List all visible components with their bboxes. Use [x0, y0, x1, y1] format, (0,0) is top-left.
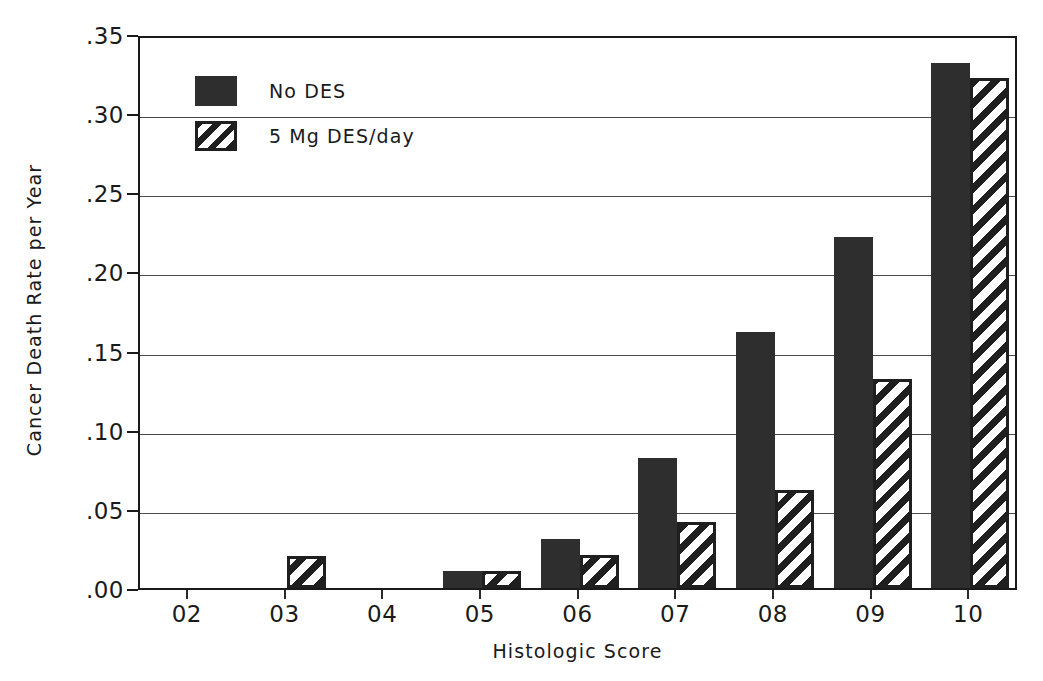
- bar-solid-10: [931, 63, 970, 589]
- x-axis-tick-label: 04: [342, 601, 422, 627]
- legend-item: 5 Mg DES/day: [195, 113, 525, 158]
- y-axis-tick-label: .00: [50, 579, 124, 602]
- legend-label-no-des: No DES: [269, 80, 346, 102]
- x-axis-tick-mark: [577, 590, 579, 599]
- x-axis-label: Histologic Score: [138, 640, 1017, 662]
- x-axis-tick-mark: [479, 590, 481, 599]
- x-axis-tick-mark: [870, 590, 872, 599]
- bar-group: [638, 38, 716, 588]
- legend-label-des: 5 Mg DES/day: [269, 125, 415, 147]
- y-axis-tick-mark: [127, 272, 138, 274]
- x-axis-tick-mark: [967, 590, 969, 599]
- y-axis-tick-mark: [127, 114, 138, 116]
- y-axis-tick-mark: [127, 193, 138, 195]
- x-axis-tick-mark: [772, 590, 774, 599]
- x-axis-tick-label: 10: [928, 601, 1008, 627]
- bar-solid-09: [834, 237, 873, 588]
- bar-hatch-07: [677, 522, 716, 588]
- y-axis-tick-label: .05: [50, 499, 124, 522]
- x-axis-tick-label: 09: [831, 601, 911, 627]
- legend-swatch-no-des: [195, 76, 237, 106]
- y-axis-tick-mark: [127, 352, 138, 354]
- legend-swatch-des: [195, 121, 237, 151]
- x-axis-tick-label: 05: [440, 601, 520, 627]
- bar-hatch-08: [775, 490, 814, 588]
- bar-solid-05: [443, 571, 482, 588]
- bar-solid-06: [541, 539, 580, 588]
- bar-hatch-03: [287, 556, 326, 588]
- x-axis-tick-label: 07: [635, 601, 715, 627]
- x-axis-tick-label: 06: [538, 601, 618, 627]
- x-axis-tick-label: 08: [733, 601, 813, 627]
- bar-hatch-09: [873, 379, 912, 588]
- y-axis-tick-label: .15: [50, 341, 124, 364]
- bar-hatch-10: [970, 78, 1009, 588]
- bar-hatch-06: [580, 555, 619, 588]
- y-axis-tick-labels: .00.05.10.15.20.25.30.35: [28, 0, 124, 681]
- bar-chart-figure: Cancer Death Rate per Year .00.05.10.15.…: [0, 0, 1043, 681]
- y-axis-tick-label: .10: [50, 420, 124, 443]
- x-axis-tick-mark: [674, 590, 676, 599]
- bar-group: [834, 38, 912, 588]
- x-axis-tick-mark: [186, 590, 188, 599]
- y-axis-tick-label: .25: [50, 183, 124, 206]
- bar-group: [736, 38, 814, 588]
- x-axis-tick-label: 03: [245, 601, 325, 627]
- y-axis-tick-mark: [127, 431, 138, 433]
- x-axis-tick-mark: [381, 590, 383, 599]
- bar-group: [541, 38, 619, 588]
- legend: No DES 5 Mg DES/day: [195, 68, 525, 158]
- y-axis-tick-label: .20: [50, 262, 124, 285]
- bar-solid-08: [736, 332, 775, 588]
- x-axis-tick-mark: [284, 590, 286, 599]
- bar-solid-07: [638, 458, 677, 588]
- y-axis-tick-mark: [127, 589, 138, 591]
- bar-hatch-05: [482, 571, 521, 588]
- y-axis-tick-mark: [127, 510, 138, 512]
- bar-group: [931, 38, 1009, 588]
- y-axis-tick-label: .30: [50, 104, 124, 127]
- x-axis-tick-label: 02: [147, 601, 227, 627]
- y-axis-tick-label: .35: [50, 25, 124, 48]
- legend-item: No DES: [195, 68, 525, 113]
- y-axis-tick-mark: [127, 35, 138, 37]
